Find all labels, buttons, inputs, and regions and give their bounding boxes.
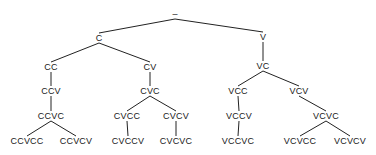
tree-node-cc: CC [44,63,57,72]
tree-node-cvcc: CVCC [114,112,140,121]
syllable-tree-diagram: –CVCCCVVCCCVCVCVCCVCVCCVCCVCCCVCVVCCVVCV… [0,0,376,155]
edge-CCVC-CCVCC [27,121,51,136]
tree-node-c: C [96,34,103,43]
edge-CVCC-CVCCV [127,121,128,136]
tree-node-vccvc: VCCVC [222,137,255,146]
tree-node-ccvcc: CCVCC [10,137,43,146]
tree-node-vccv: VCCV [226,112,252,121]
tree-node-cv: CV [144,63,157,72]
tree-edges [0,0,376,155]
tree-node-v: V [260,33,266,42]
edge-CVC-CVCC [127,96,150,111]
edge-VC-VCV [263,71,299,86]
tree-node-ccv: CCV [41,87,61,96]
edge-CVC-CVCV [150,96,176,111]
edge-VCV-VCVC [299,96,326,111]
tree-node-ccvcv: CCVCV [60,137,93,146]
tree-node-cvccv: CVCCV [112,137,145,146]
tree-node-cvcv: CVCV [163,112,189,121]
edge-VCVC-VCVCC [300,121,326,136]
edge-C-CC [51,43,99,62]
tree-node-cvc: CVC [140,87,160,96]
edge-root-V [175,19,263,32]
tree-node-vcvcc: VCVCC [284,137,317,146]
tree-node-vcvc: VCVC [313,112,339,121]
edge-root-C [99,19,175,33]
tree-node-vc: VC [257,62,270,71]
tree-node-cvcvc: CVCVC [160,137,193,146]
tree-node-ccvc: CCVC [38,112,64,121]
tree-node-vcvcv: VCVCV [334,137,366,146]
edge-VCC-VCCV [238,96,239,111]
edge-VC-VCC [238,71,263,86]
tree-node-vcc: VCC [228,87,248,96]
edge-VCVC-VCVCV [326,121,350,136]
tree-node-vcv: VCV [289,87,308,96]
tree-node-root: – [172,10,177,19]
edge-C-CV [99,43,150,62]
edge-VCCV-VCCVC [238,121,239,136]
edge-CCVC-CCVCV [51,121,76,136]
